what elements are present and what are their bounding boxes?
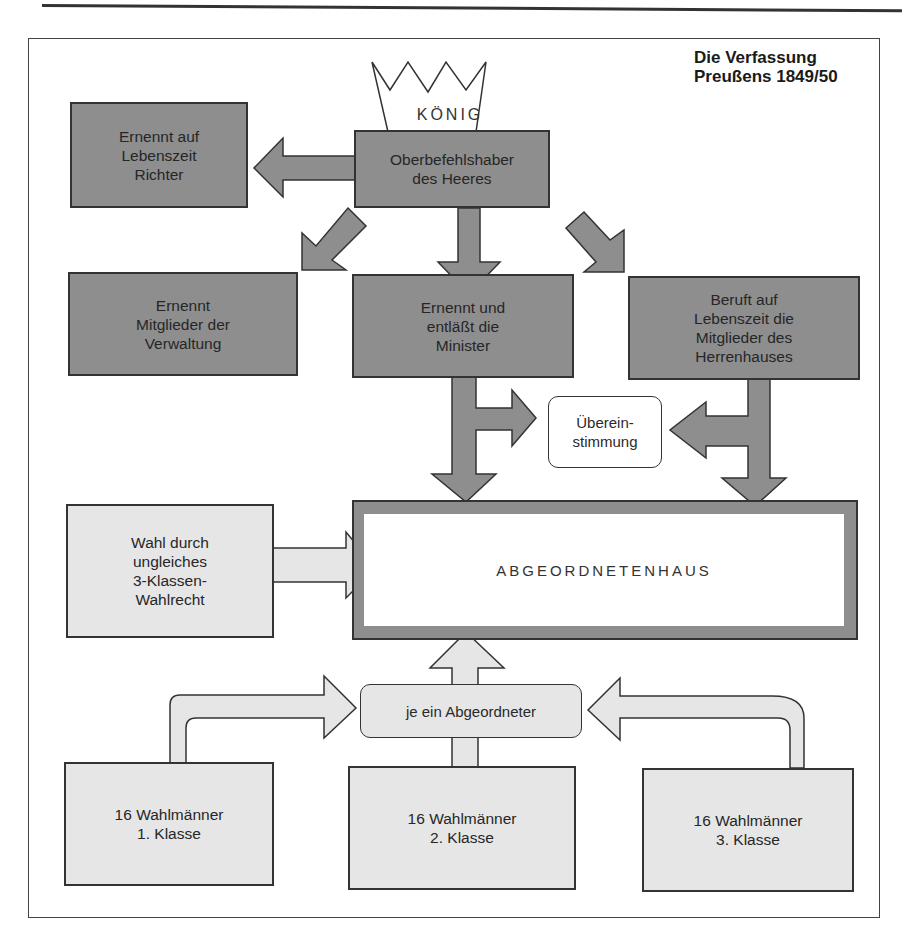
arrow-class3-to-delegate bbox=[588, 678, 804, 768]
elector-class-3-box: 16 Wahlmänner 3. Klasse bbox=[642, 768, 854, 892]
arrow-herrenhaus-to-parliament bbox=[670, 378, 786, 506]
arrow-class1-to-delegate bbox=[170, 676, 356, 765]
judges-text: Ernennt auf Lebenszeit Richter bbox=[119, 127, 199, 184]
ministers-box: Ernennt und entläßt die Minister bbox=[352, 274, 574, 378]
parliament-label: ABGEORDNETENHAUS bbox=[364, 514, 844, 626]
arrow-delegate-to-parliament bbox=[430, 632, 504, 686]
connector-class2 bbox=[452, 736, 478, 768]
agreement-box: Überein- stimmung bbox=[548, 396, 662, 468]
agreement-text: Überein- stimmung bbox=[572, 413, 637, 451]
elector-class-1-text: 16 Wahlmänner 1. Klasse bbox=[115, 805, 224, 843]
election-box: Wahl durch ungleiches 3-Klassen- Wahlrec… bbox=[66, 504, 274, 638]
herrenhaus-text: Beruft auf Lebenszeit die Mitglieder des… bbox=[694, 290, 794, 366]
elector-class-2-box: 16 Wahlmänner 2. Klasse bbox=[348, 766, 576, 890]
arrow-ministers-to-parliament bbox=[432, 376, 536, 502]
herrenhaus-box: Beruft auf Lebenszeit die Mitglieder des… bbox=[628, 276, 860, 380]
elector-class-3-text: 16 Wahlmänner 3. Klasse bbox=[694, 811, 803, 849]
administration-text: Ernennt Mitglieder der Verwaltung bbox=[136, 296, 230, 353]
judges-box: Ernennt auf Lebenszeit Richter bbox=[70, 102, 248, 208]
commander-box: Oberbefehlshaber des Heeres bbox=[354, 130, 550, 208]
delegate-text: je ein Abgeordneter bbox=[406, 702, 536, 721]
elector-class-1-box: 16 Wahlmänner 1. Klasse bbox=[64, 762, 274, 886]
diagram-title: Die Verfassung Preußens 1849/50 bbox=[694, 48, 838, 86]
king-label: KÖNIG bbox=[400, 106, 500, 124]
arrow-to-judges bbox=[254, 138, 356, 197]
delegate-box: je ein Abgeordneter bbox=[360, 684, 582, 738]
administration-box: Ernennt Mitglieder der Verwaltung bbox=[68, 272, 298, 376]
elector-class-2-text: 16 Wahlmänner 2. Klasse bbox=[408, 809, 517, 847]
parliament-box: ABGEORDNETENHAUS bbox=[352, 500, 858, 640]
ministers-text: Ernennt und entläßt die Minister bbox=[421, 298, 505, 355]
election-text: Wahl durch ungleiches 3-Klassen- Wahlrec… bbox=[131, 533, 209, 609]
commander-text: Oberbefehlshaber des Heeres bbox=[390, 150, 514, 188]
arrow-to-herrenhaus bbox=[566, 212, 624, 272]
arrow-to-administration bbox=[302, 208, 366, 270]
